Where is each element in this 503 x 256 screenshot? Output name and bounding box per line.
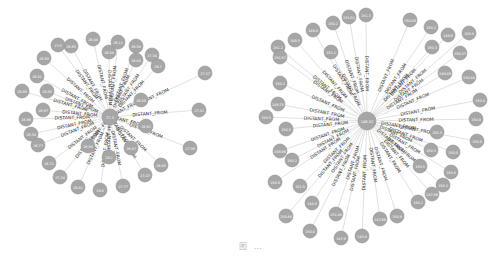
graph-node[interactable]: 27.77 (116, 179, 130, 193)
graph-node[interactable]: 26.88 (81, 139, 95, 153)
graph-node[interactable]: 150.8 (444, 165, 458, 179)
node-label: 150.3 (427, 46, 437, 50)
node-label: 26.41 (32, 75, 42, 79)
graph-node[interactable]: 26.44 (86, 32, 100, 46)
graph-node[interactable]: 150.0 (279, 122, 293, 136)
graph-node[interactable]: 149.6 (441, 28, 455, 42)
graph-node[interactable]: 151.57 (273, 50, 287, 64)
node-label: 147.96 (426, 193, 438, 197)
graph-node[interactable]: 26.89 (134, 93, 148, 107)
graph-node[interactable]: 150.2 (436, 178, 450, 192)
graph-node[interactable]: 26.41 (71, 180, 85, 194)
graph-node[interactable]: 26.84 (129, 53, 143, 67)
graph-node[interactable]: 150.2 (424, 20, 438, 34)
node-label: 26.92 (141, 125, 151, 129)
graph-node[interactable]: 151.3 (359, 8, 373, 22)
graph-node[interactable]: 150.9 (268, 175, 282, 189)
graph-node[interactable]: 26.58 (129, 39, 143, 53)
graph-node[interactable]: 27.07 (138, 168, 152, 182)
node-label: 150.8 (392, 215, 402, 219)
graph-node[interactable]: 150.5 (413, 159, 427, 173)
graph-node[interactable]: 27.36 (183, 141, 197, 155)
graph-node[interactable]: 150.0 (469, 112, 483, 126)
node-label: 27.32 (194, 109, 204, 113)
graph-node[interactable]: 150.2 (326, 16, 340, 30)
node-label: 150.0 (305, 230, 315, 234)
graph-node[interactable]: 150.5 (259, 110, 273, 124)
node-label: 26.2 (105, 156, 113, 160)
graph-node[interactable]: 26.59 (37, 51, 51, 65)
graph-node[interactable]: 26.2 (102, 150, 116, 164)
node-label: 150.3 (426, 149, 436, 153)
graph-node[interactable]: 150.8 (390, 209, 404, 223)
graph-node[interactable]: 151.44 (329, 207, 343, 221)
graph-node[interactable]: 149.75 (271, 97, 285, 111)
node-label: 150.2 (438, 184, 448, 188)
graph-node[interactable]: 149.8 (306, 23, 320, 37)
graph-node[interactable]: 150.2 (273, 76, 287, 90)
node-label: 150.0 (475, 99, 485, 103)
graph-node[interactable]: 150.37 (453, 46, 467, 60)
graph-node[interactable]: 150.0 (446, 145, 460, 159)
graph-node[interactable]: 150.3 (425, 40, 439, 54)
graph-node[interactable]: 27.5 (51, 38, 65, 52)
graph-node[interactable]: 26.85 (40, 84, 54, 98)
graph-node[interactable]: 150.2 (411, 195, 425, 209)
graph-node[interactable]: 26.99 (15, 84, 29, 98)
center-node[interactable]: 149.52 (358, 112, 376, 130)
graph-node[interactable]: 150.0 (303, 224, 317, 238)
graph-node[interactable]: 150.44 (462, 70, 476, 84)
edge-label: DISTANT_FROM (361, 155, 369, 191)
graph-node[interactable]: 26.71 (42, 156, 56, 170)
graph-node[interactable]: 26.85 (154, 158, 168, 172)
graph-node[interactable]: 150.3 (424, 143, 438, 157)
graph-node[interactable]: 27.34 (53, 170, 67, 184)
graph-node[interactable]: 150.2 (285, 153, 299, 167)
node-label: 150.37 (454, 52, 466, 56)
graph-node[interactable]: 26.96 (19, 112, 33, 126)
node-label: 149.49 (439, 72, 451, 76)
node-label: 150.2 (287, 159, 297, 163)
node-label: 151.44 (330, 213, 342, 217)
graph-node[interactable]: 148.8 (305, 196, 319, 210)
graph-node[interactable]: 151.51 (342, 10, 356, 24)
node-label: 26.87 (126, 147, 136, 151)
graph-node[interactable]: 26.6 (93, 183, 107, 197)
graph-node[interactable]: 26.7 (151, 59, 165, 73)
graph-node[interactable]: 150.0 (473, 93, 487, 107)
center-node-label: 27.5 (106, 116, 114, 120)
graph-node[interactable]: 151.2 (324, 45, 338, 59)
node-label: 150.3 (432, 131, 442, 135)
graph-node[interactable]: 150.9 (462, 26, 476, 40)
node-label: 27.36 (185, 147, 195, 151)
graph-node[interactable]: 27.37 (198, 66, 212, 80)
graph-node[interactable]: 26.41 (30, 69, 44, 83)
node-label: 150.2 (413, 201, 423, 205)
graph-node[interactable]: 150.3 (430, 125, 444, 139)
graph-node[interactable]: 26.97 (36, 103, 50, 117)
graph-figure: DISTANT_FROMDISTANT_FROMDISTANT_FROMDIST… (0, 0, 503, 256)
graph-node[interactable]: 26.87 (124, 141, 138, 155)
graph-node[interactable]: 150.09 (403, 13, 417, 27)
graph-node[interactable]: 151.5 (293, 179, 307, 193)
graph-node[interactable]: 150.9 (470, 134, 484, 148)
graph-node[interactable]: 27.32 (192, 103, 206, 117)
graph-node[interactable]: 147.66 (373, 212, 387, 226)
graph-node[interactable]: 26.77 (31, 138, 45, 152)
right-network-graph: DISTANT_FROMDISTANT_FROMDISTANT_FROMDIST… (259, 8, 487, 245)
node-label: 26.6 (96, 189, 104, 193)
node-label: 149.8 (308, 29, 318, 33)
node-label: 149.5 (290, 39, 300, 43)
graph-node[interactable]: 26.65 (64, 39, 78, 53)
node-label: 149.6 (443, 34, 453, 38)
graph-node[interactable]: 149.5 (288, 33, 302, 47)
graph-node[interactable]: 147.96 (425, 187, 439, 201)
node-label: 148.8 (307, 202, 317, 206)
graph-node[interactable]: 150.86 (279, 209, 293, 223)
graph-node[interactable]: 26.92 (139, 119, 153, 133)
graph-node[interactable]: 149.49 (438, 66, 452, 80)
graph-node[interactable]: 149.96 (273, 144, 287, 158)
graph-node[interactable]: 26.58 (102, 45, 116, 59)
center-node[interactable]: 27.5 (102, 109, 118, 125)
node-label: 27.34 (55, 176, 65, 180)
